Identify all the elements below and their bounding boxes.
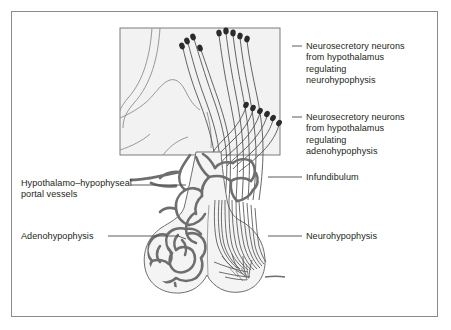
figure-hypothalamo-hypophyseal-system: Neurosecretory neurons from hypothalamus… — [0, 0, 451, 330]
label-adenohypophysis: Adenohypophysis — [21, 231, 161, 242]
efferent-vein — [265, 276, 285, 277]
label-neurosecretory-neurons-adenohypophysis: Neurosecretory neurons from hypothalamus… — [306, 112, 446, 158]
label-neurohypophysis: Neurohypophysis — [306, 231, 446, 242]
label-infundibulum: Infundibulum — [306, 172, 446, 183]
label-hypothalamo-hypophyseal-portal-vessels: Hypothalamo–hypophyseal portal vessels — [21, 178, 181, 201]
label-neurosecretory-neurons-neurohypophysis: Neurosecretory neurons from hypothalamus… — [306, 41, 446, 87]
